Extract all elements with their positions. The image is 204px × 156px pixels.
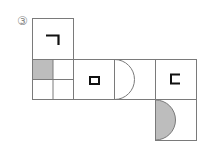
shaded-semicircle-icon: [156, 100, 176, 140]
cube-net-diagram: [0, 0, 204, 156]
face-d-symbol: [156, 60, 197, 100]
semicircle-outline-icon: [115, 60, 135, 100]
digeut-symbol: [171, 75, 180, 84]
giyeok-symbol: [46, 36, 59, 46]
shaded-cell: [33, 60, 53, 80]
mieum-symbol: [90, 77, 99, 84]
face-semicircle: [115, 60, 156, 100]
face-square-symbol: [74, 60, 115, 100]
face-top: [33, 19, 74, 60]
